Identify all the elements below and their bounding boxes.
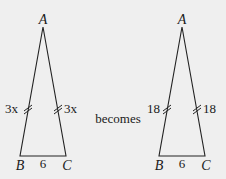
triangle-before-outline — [20, 27, 66, 156]
triangle-after: A B C 6 18 18 — [147, 12, 216, 173]
vertex-label-b: B — [155, 158, 164, 173]
base-length-label: 6 — [179, 156, 186, 171]
becomes-label: becomes — [95, 111, 140, 126]
vertex-label-a: A — [177, 12, 187, 27]
vertex-label-a: A — [38, 12, 48, 27]
base-length-label: 6 — [40, 156, 47, 171]
vertex-label-c: C — [201, 158, 211, 173]
left-side-length-label: 18 — [147, 101, 160, 116]
triangle-before: A B C 6 3x 3x — [5, 12, 78, 173]
right-side-length-label: 3x — [64, 101, 78, 116]
right-side-length-label: 18 — [203, 101, 216, 116]
vertex-label-c: C — [62, 158, 72, 173]
triangle-after-outline — [159, 27, 205, 156]
vertex-label-b: B — [16, 158, 25, 173]
left-side-length-label: 3x — [5, 101, 19, 116]
diagram-canvas: A B C 6 3x 3x becomes A B C 6 18 18 — [0, 0, 226, 179]
